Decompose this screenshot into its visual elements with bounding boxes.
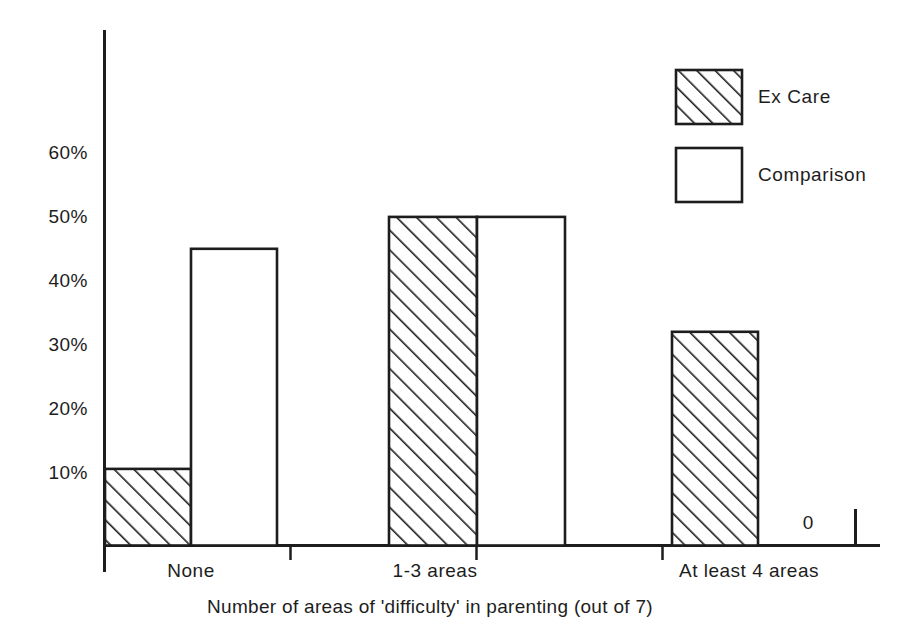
x-tick-label-at-least-4-areas: At least 4 areas xyxy=(679,560,819,582)
y-tick-label-30: 30% xyxy=(18,334,88,356)
legend-label-comparison: Comparison xyxy=(758,164,866,186)
bar-chart-figure: 60% 50% 40% 30% 20% 10% None 1-3 areas A… xyxy=(0,0,904,637)
bar-ex-care-1-3-areas xyxy=(389,217,477,546)
legend-swatch-ex-care xyxy=(676,70,742,124)
legend-label-ex-care: Ex Care xyxy=(758,86,831,108)
y-tick-label-10: 10% xyxy=(18,462,88,484)
zero-value-annotation: 0 xyxy=(803,512,814,534)
bar-ex-care-at-least-4-areas xyxy=(672,332,758,546)
bar-comparison-1-3-areas xyxy=(477,217,565,546)
y-tick-label-40: 40% xyxy=(18,270,88,292)
x-tick-label-1-3-areas: 1-3 areas xyxy=(393,560,478,582)
y-tick-label-60: 60% xyxy=(18,142,88,164)
x-tick-label-none: None xyxy=(167,560,214,582)
x-axis-title: Number of areas of 'difficulty' in paren… xyxy=(207,596,653,618)
bar-ex-care-none xyxy=(105,469,191,546)
y-tick-label-20: 20% xyxy=(18,398,88,420)
bar-comparison-none xyxy=(191,249,277,546)
legend-swatch-comparison xyxy=(676,148,742,202)
y-tick-label-50: 50% xyxy=(18,206,88,228)
